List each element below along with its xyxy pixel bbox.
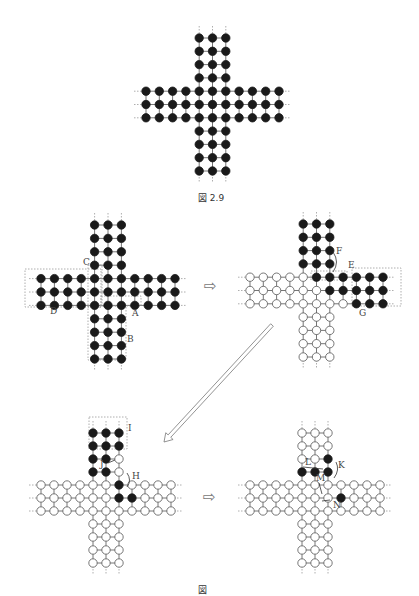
peg [89,442,97,450]
peg [64,274,72,282]
empty-hole [312,300,320,308]
empty-hole [311,455,319,463]
peg [117,221,125,229]
peg [195,140,203,148]
empty-hole [37,507,45,515]
peg [298,468,306,476]
peg [195,100,203,108]
peg [379,286,387,294]
peg [104,288,112,296]
empty-hole [298,442,306,450]
empty-hole [326,300,334,308]
empty-hole [298,507,306,515]
empty-hole [311,442,319,450]
peg [64,301,72,309]
empty-hole [324,520,332,528]
empty-hole [299,353,307,361]
empty-hole [89,546,97,554]
peg [168,87,176,95]
empty-hole [115,507,123,515]
empty-hole [299,300,307,308]
peg [222,34,230,42]
empty-hole [326,326,334,334]
peg [195,34,203,42]
peg [90,355,98,363]
peg [222,167,230,175]
empty-hole [272,507,280,515]
empty-hole [89,507,97,515]
empty-hole [102,533,110,541]
peg [208,114,216,122]
empty-hole [324,559,332,567]
peg [89,455,97,463]
peg [77,301,85,309]
empty-hole [63,481,71,489]
peg [37,301,45,309]
empty-hole [63,494,71,502]
peg [222,87,230,95]
peg [104,315,112,323]
peg [222,47,230,55]
peg [104,328,112,336]
peg [324,455,332,463]
empty-hole [141,507,149,515]
peg [117,355,125,363]
peg [195,154,203,162]
peg [312,260,320,268]
empty-hole [102,494,110,502]
peg [326,273,334,281]
peg [104,341,112,349]
step-3-board: IJH [29,417,183,575]
right-arrow-2-icon: ⇨ [203,488,216,506]
peg [208,167,216,175]
peg [208,87,216,95]
peg [262,114,270,122]
empty-hole [154,481,162,489]
right-arrow-1-icon: ⇨ [204,277,217,295]
peg [222,74,230,82]
empty-hole [154,507,162,515]
empty-hole [89,481,97,489]
peg [299,220,307,228]
move-label-L: L [305,457,311,467]
peg [248,114,256,122]
empty-hole [311,520,319,528]
peg [379,300,387,308]
peg [37,274,45,282]
move-label-M: M [316,473,325,483]
peg [299,233,307,241]
empty-hole [311,546,319,554]
peg [104,248,112,256]
empty-hole [272,481,280,489]
peg [90,221,98,229]
move-label-H: H [132,471,140,481]
peg [115,442,123,450]
peg [182,100,190,108]
empty-hole [363,481,371,489]
peg [195,114,203,122]
move-label-A: A [131,308,139,318]
peg [326,260,334,268]
empty-hole [324,533,332,541]
peg [171,301,179,309]
peg [352,300,360,308]
peg [222,60,230,68]
peg [222,127,230,135]
empty-hole [115,546,123,554]
peg [339,273,347,281]
initial-board [134,26,291,183]
empty-hole [299,326,307,334]
empty-hole [89,494,97,502]
peg [128,494,136,502]
peg [90,315,98,323]
peg [37,288,45,296]
empty-hole [259,481,267,489]
peg [326,246,334,254]
empty-hole [167,494,175,502]
box-D [25,269,101,307]
peg [366,286,374,294]
peg [235,87,243,95]
step-2-board: FEG [238,212,401,369]
peg [117,261,125,269]
